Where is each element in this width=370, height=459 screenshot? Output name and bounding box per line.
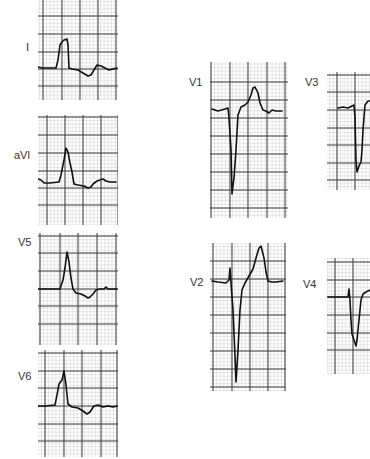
lead-label-v3: V3 (305, 77, 318, 88)
grid (38, 349, 118, 457)
lead-panel-v3 (326, 71, 370, 190)
lead-label-v6: V6 (18, 371, 31, 382)
grid (324, 255, 370, 374)
lead-label-i: I (26, 42, 29, 53)
grid (207, 60, 288, 218)
lead-panel-i (36, 0, 118, 100)
lead-panel-avl (36, 113, 118, 225)
lead-panel-v5 (36, 232, 118, 345)
lead-panel-v6 (38, 349, 118, 457)
lead-label-v2: V2 (190, 277, 203, 288)
lead-label-avl: aVl (14, 150, 30, 161)
grid (36, 113, 118, 225)
lead-label-v4: V4 (303, 279, 316, 290)
lead-panel-v1 (207, 60, 288, 218)
lead-panel-v4 (324, 255, 370, 374)
lead-panel-v2 (209, 243, 286, 391)
grid (209, 243, 286, 391)
lead-label-v5: V5 (18, 237, 31, 248)
grid (36, 0, 118, 100)
lead-label-v1: V1 (189, 77, 202, 88)
ecg-figure (0, 0, 370, 459)
